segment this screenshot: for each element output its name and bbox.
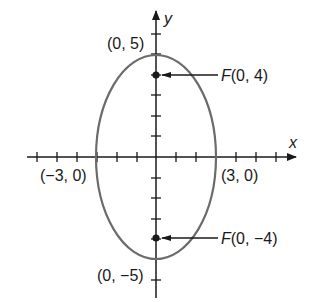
x-axis (27, 152, 296, 162)
vertex-top-label: (0, 5) (107, 35, 144, 52)
vertex-bottom-label: (0, −5) (97, 267, 144, 284)
x-axis-label: x (288, 134, 298, 151)
focus-point-top (152, 71, 159, 78)
focus-bottom-coords: (0, −4) (231, 230, 278, 247)
co-vertex-left-label: (−3, 0) (40, 167, 87, 184)
focus-top-coords: (0, 4) (231, 67, 268, 84)
focus-point-bottom (152, 234, 159, 241)
focus-bottom-label: F(0, −4) (221, 230, 277, 247)
focus-top-label: F(0, 4) (221, 67, 268, 84)
ellipse-diagram: y x (0, 5) (0, −5) (−3, 0) (3, 0) F(0, 4… (0, 0, 315, 302)
co-vertex-right-label: (3, 0) (221, 167, 258, 184)
y-axis-label: y (163, 10, 173, 27)
